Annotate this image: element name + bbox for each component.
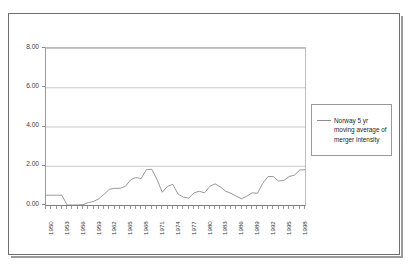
x-axis-tick-mark <box>219 206 220 209</box>
y-axis-tick-mark <box>42 86 45 87</box>
x-axis-tick-mark <box>267 206 268 209</box>
x-axis-tick-label: 1962 <box>111 221 117 235</box>
figure-border: 0.002.004.006.008.00 1950195319561959196… <box>8 13 400 255</box>
x-axis-tick-mark <box>209 206 210 209</box>
x-axis-tick-mark <box>272 206 273 209</box>
legend: Norway 5 yr moving average of merger int… <box>311 104 392 156</box>
x-axis-ticks <box>45 206 307 210</box>
x-axis-tick-label: 1995 <box>286 221 292 235</box>
x-axis-tick-mark <box>66 206 67 209</box>
x-axis-tick-mark <box>230 206 231 209</box>
x-axis-tick-mark <box>103 206 104 209</box>
y-axis-tick-mark <box>42 126 45 127</box>
x-axis-tick-mark <box>93 206 94 209</box>
x-axis-tick-mark <box>87 206 88 209</box>
x-axis-tick-label: 1971 <box>159 221 165 235</box>
y-axis-tick-label: 2.00 <box>13 161 39 168</box>
x-axis-tick-mark <box>119 206 120 209</box>
legend-entry: Norway 5 yr moving average of merger int… <box>317 116 390 144</box>
x-axis-tick-mark <box>71 206 72 209</box>
x-axis-tick-mark <box>135 206 136 209</box>
x-axis-tick-mark <box>145 206 146 209</box>
y-axis-tick-label: 0.00 <box>13 201 39 208</box>
x-axis-tick-mark <box>61 206 62 209</box>
x-axis-tick-mark <box>214 206 215 209</box>
x-axis-tick-mark <box>161 206 162 209</box>
x-axis-tick-mark <box>124 206 125 209</box>
x-axis-tick-mark <box>288 206 289 209</box>
x-axis-tick-label: 1977 <box>191 221 197 235</box>
x-axis-tick-label: 1959 <box>96 221 102 235</box>
y-axis-tick-label: 8.00 <box>13 44 39 51</box>
x-axis-tick-mark <box>304 206 305 209</box>
x-axis-tick-mark <box>246 206 247 209</box>
chart-figure: 0.002.004.006.008.00 1950195319561959196… <box>0 0 414 272</box>
x-axis-tick-mark <box>235 206 236 209</box>
x-axis-tick-label: 1983 <box>222 221 228 235</box>
x-axis-tick-label: 1968 <box>143 221 149 235</box>
legend-line-swatch <box>317 120 331 121</box>
x-axis-tick-mark <box>45 206 46 209</box>
x-axis-tick-mark <box>177 206 178 209</box>
y-axis-tick-mark <box>42 47 45 48</box>
x-axis-labels: 1950195319561959196219651968197119741977… <box>45 211 307 251</box>
x-axis-tick-mark <box>188 206 189 209</box>
x-axis-tick-mark <box>293 206 294 209</box>
x-axis-tick-mark <box>278 206 279 209</box>
x-axis-tick-mark <box>50 206 51 209</box>
x-axis-tick-mark <box>82 206 83 209</box>
y-axis-tick-mark <box>42 204 45 205</box>
x-axis-tick-mark <box>198 206 199 209</box>
x-axis-tick-mark <box>225 206 226 209</box>
x-axis-tick-mark <box>299 206 300 209</box>
x-axis-tick-mark <box>156 206 157 209</box>
x-axis-tick-mark <box>167 206 168 209</box>
x-axis-tick-label: 1998 <box>302 221 308 235</box>
x-axis-tick-mark <box>204 206 205 209</box>
data-line-layer <box>46 48 305 205</box>
y-axis-tick-label: 6.00 <box>13 83 39 90</box>
x-axis-tick-mark <box>130 206 131 209</box>
x-axis-tick-mark <box>241 206 242 209</box>
x-axis-tick-label: 1986 <box>238 221 244 235</box>
x-axis-tick-label: 1956 <box>80 221 86 235</box>
x-axis-tick-label: 1980 <box>207 221 213 235</box>
x-axis-tick-mark <box>172 206 173 209</box>
x-axis-tick-mark <box>114 206 115 209</box>
x-axis-tick-mark <box>77 206 78 209</box>
x-axis-tick-mark <box>182 206 183 209</box>
x-axis-tick-mark <box>140 206 141 209</box>
x-axis-tick-label: 1953 <box>64 221 70 235</box>
y-axis-tick-mark <box>42 165 45 166</box>
x-axis-tick-mark <box>251 206 252 209</box>
y-axis-tick-label: 4.00 <box>13 122 39 129</box>
x-axis-tick-label: 1965 <box>127 221 133 235</box>
x-axis-tick-label: 1950 <box>48 221 54 235</box>
x-axis-tick-mark <box>108 206 109 209</box>
x-axis-tick-mark <box>193 206 194 209</box>
x-axis-tick-mark <box>56 206 57 209</box>
plot-area <box>45 47 306 206</box>
x-axis-tick-mark <box>283 206 284 209</box>
x-axis-tick-mark <box>256 206 257 209</box>
x-axis-tick-mark <box>98 206 99 209</box>
clipped-header-text <box>0 0 414 11</box>
x-axis-tick-label: 1992 <box>270 221 276 235</box>
legend-entry-label: Norway 5 yr moving average of merger int… <box>334 116 390 144</box>
x-axis-tick-mark <box>262 206 263 209</box>
x-axis-tick-label: 1974 <box>175 221 181 235</box>
x-axis-tick-label: 1989 <box>254 221 260 235</box>
x-axis-tick-mark <box>151 206 152 209</box>
